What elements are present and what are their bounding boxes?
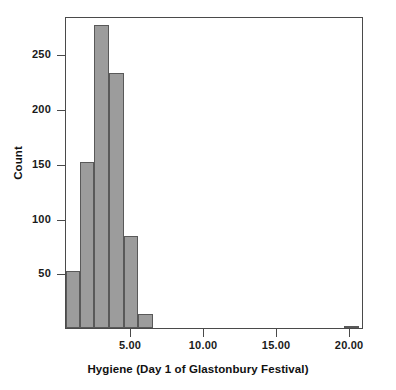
histogram-chart: 50100150200250 5.0010.0015.0020.00 Count…: [0, 0, 396, 390]
histogram-bar: [66, 271, 80, 328]
histogram-bar: [94, 25, 109, 328]
x-axis-tick-label: 10.00: [173, 339, 233, 351]
x-axis-tick: [276, 329, 277, 337]
histogram-bar: [138, 314, 153, 328]
histogram-bar: [344, 326, 359, 328]
x-axis-tick: [349, 329, 350, 337]
y-axis-tick-label: 250: [32, 48, 51, 60]
y-axis-tick-label: 200: [32, 103, 51, 115]
plot-area: [65, 17, 363, 329]
y-axis-tick: [57, 110, 65, 111]
histogram-bar: [109, 73, 124, 328]
x-axis-tick: [203, 329, 204, 337]
y-axis-tick: [57, 55, 65, 56]
histogram-bar: [80, 162, 95, 328]
y-axis-tick-label: 50: [38, 267, 51, 279]
y-axis-title: Count: [12, 123, 24, 203]
y-axis-tick: [57, 165, 65, 166]
histogram-bar: [124, 236, 139, 328]
y-axis-tick-label: 150: [32, 158, 51, 170]
y-axis-tick: [57, 274, 65, 275]
x-axis-tick-label: 5.00: [100, 339, 160, 351]
bars-layer: [66, 18, 362, 328]
x-axis-title: Hygiene (Day 1 of Glastonbury Festival): [0, 363, 396, 375]
y-axis-tick: [57, 220, 65, 221]
x-axis-tick-label: 15.00: [246, 339, 306, 351]
y-axis-tick-label: 100: [32, 213, 51, 225]
x-axis-tick-label: 20.00: [319, 339, 379, 351]
x-axis-tick: [130, 329, 131, 337]
